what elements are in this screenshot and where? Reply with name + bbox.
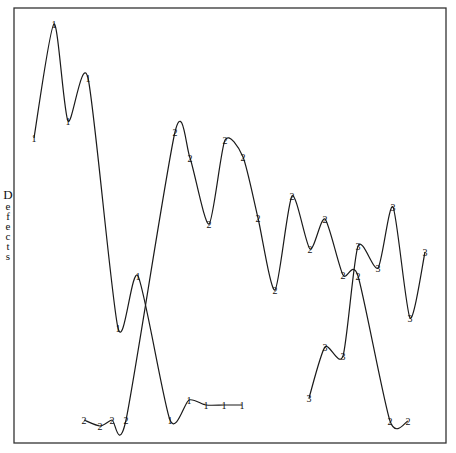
point-marker: 3 — [391, 202, 396, 213]
point-marker: 3 — [323, 342, 328, 353]
point-marker: 2 — [98, 421, 103, 432]
point-marker: 1 — [168, 415, 173, 426]
point-marker: 2 — [223, 135, 228, 146]
point-marker: 2 — [124, 415, 129, 426]
series-layer: 1111111111122222222222222222233333333 — [32, 19, 428, 435]
point-marker: 1 — [240, 400, 245, 411]
point-marker: 1 — [116, 323, 121, 334]
point-marker: 2 — [188, 153, 193, 164]
point-marker: 2 — [406, 416, 411, 427]
point-marker: 2 — [323, 214, 328, 225]
point-marker: 3 — [307, 393, 312, 404]
point-marker: 2 — [207, 219, 212, 230]
point-marker: 2 — [290, 191, 295, 202]
point-marker: 2 — [341, 270, 346, 281]
point-marker: 1 — [52, 19, 57, 30]
point-marker: 1 — [32, 133, 37, 144]
series-line — [309, 207, 425, 398]
point-marker: 2 — [356, 271, 361, 282]
series-2: 222222222222222222 — [82, 121, 411, 435]
point-marker: 3 — [376, 263, 381, 274]
point-marker: 2 — [256, 213, 261, 224]
point-marker: 2 — [273, 285, 278, 296]
series-3: 33333333 — [307, 202, 428, 404]
point-marker: 1 — [222, 400, 227, 411]
line-chart: 1111111111122222222222222222233333333 — [0, 0, 456, 453]
point-marker: 2 — [308, 244, 313, 255]
point-marker: 1 — [187, 395, 192, 406]
point-marker: 3 — [356, 241, 361, 252]
point-marker: 1 — [204, 400, 209, 411]
point-marker: 1 — [66, 116, 71, 127]
point-marker: 2 — [110, 415, 115, 426]
series-1: 11111111111 — [32, 19, 245, 426]
point-marker: 2 — [82, 415, 87, 426]
point-marker: 2 — [388, 416, 393, 427]
point-marker: 1 — [86, 73, 91, 84]
point-marker: 2 — [173, 127, 178, 138]
point-marker: 2 — [241, 152, 246, 163]
plot-frame — [14, 8, 446, 443]
point-marker: 3 — [341, 351, 346, 362]
point-marker: 1 — [136, 271, 141, 282]
point-marker: 3 — [423, 247, 428, 258]
point-marker: 3 — [408, 313, 413, 324]
